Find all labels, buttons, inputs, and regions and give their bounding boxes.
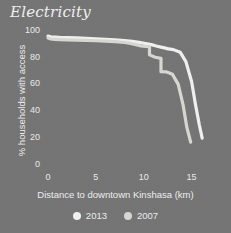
- x-axis-title: Distance to downtown Kinshasa (km): [0, 189, 231, 200]
- x-tick-label: 5: [82, 172, 110, 182]
- y-axis-title: % households with access: [16, 31, 27, 171]
- chart-legend: 20132007: [0, 210, 231, 221]
- series-layer: [48, 36, 202, 142]
- legend-item-2013[interactable]: 2013: [73, 210, 107, 221]
- legend-label: 2007: [137, 210, 158, 221]
- legend-swatch-icon: [73, 212, 81, 220]
- x-tick-label: 10: [130, 172, 158, 182]
- series-line-2007: [48, 38, 191, 142]
- x-tick-label: 0: [34, 172, 62, 182]
- legend-item-2007[interactable]: 2007: [124, 210, 158, 221]
- legend-label: 2013: [86, 210, 107, 221]
- legend-swatch-icon: [124, 212, 132, 220]
- chart-figure: Electricity 020406080100 051015 % househ…: [0, 0, 231, 233]
- x-tick-label: 15: [178, 172, 206, 182]
